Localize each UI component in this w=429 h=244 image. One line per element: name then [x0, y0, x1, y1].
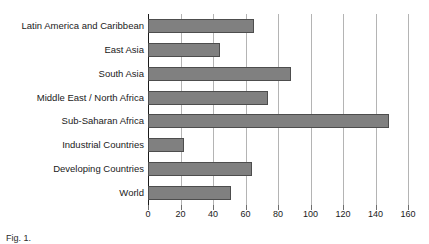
category-label: Middle East / North Africa	[0, 92, 144, 104]
category-label: South Asia	[0, 68, 144, 80]
chart-plot-region: Latin America and CaribbeanEast AsiaSout…	[0, 0, 429, 210]
category-label: World	[0, 187, 144, 199]
figure-caption: Fig. 1.	[6, 233, 31, 244]
category-label: Industrial Countries	[0, 139, 144, 151]
category-label: Latin America and Caribbean	[0, 20, 144, 32]
category-labels-group: Latin America and CaribbeanEast AsiaSout…	[0, 0, 429, 210]
category-label: Developing Countries	[0, 163, 144, 175]
category-label: Sub-Saharan Africa	[0, 115, 144, 127]
category-label: East Asia	[0, 44, 144, 56]
x-axis-tick-label: 160	[388, 209, 428, 220]
